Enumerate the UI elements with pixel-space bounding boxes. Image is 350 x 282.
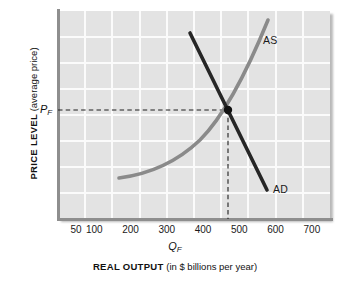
y-axis-title-note: (average price): [28, 47, 39, 111]
x-axis-tick-label: 300: [147, 224, 187, 235]
x-axis-tick-label: 500: [219, 224, 259, 235]
y-axis-title-main: PRICE LEVEL: [28, 114, 39, 180]
x-axis-tick-label: 600: [256, 224, 296, 235]
x-axis-title: REAL OUTPUT (in $ billions per year): [0, 261, 350, 272]
output-equilibrium-label: QF: [0, 240, 350, 254]
qf-symbol: Q: [168, 240, 177, 252]
ad-curve-label: AD: [273, 183, 288, 195]
x-axis-tick-label: 700: [292, 224, 332, 235]
as-curve-label: AS: [263, 34, 277, 46]
x-axis-tick-label: 400: [183, 224, 223, 235]
price-level-equilibrium-label: PF: [40, 103, 52, 117]
x-axis-tick-label: 100: [74, 224, 114, 235]
y-axis-title: PRICE LEVEL (average price): [28, 19, 39, 209]
qf-subscript: F: [177, 245, 182, 254]
x-axis-title-note: (in $ billions per year): [166, 261, 257, 272]
equilibrium-point: [224, 106, 232, 114]
pf-subscript: F: [47, 108, 52, 117]
x-axis-tick-label: 200: [111, 224, 151, 235]
chart-figure: AS AD PF 50100200300400500600700 QF PRIC…: [0, 0, 350, 282]
x-axis-title-main: REAL OUTPUT: [93, 261, 164, 272]
